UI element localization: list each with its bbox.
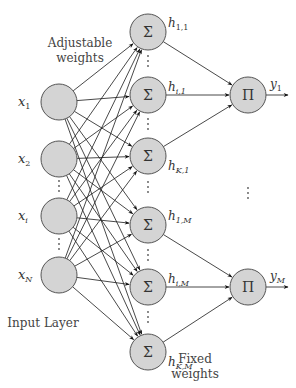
input-to-sum-edges [65,44,142,340]
sigma-icon: Σ [143,217,153,233]
output-label-y1: y1 [269,77,282,93]
edge-x2-hi1 [74,106,133,148]
sum-label-hK1: hK,1 [168,159,189,175]
ellipsis-sum-1 [147,60,149,62]
edge-x2-hK1 [77,157,129,159]
ellipsis-products [247,197,249,199]
ellipsis-inputs-1 [58,180,60,182]
ellipsis-inputs-1 [58,185,60,187]
edge-x1-hiM [67,118,140,270]
adjustable-weights-caption-2: weights [56,51,104,65]
input-label-x1: x1 [18,94,30,111]
edge-xN-hKM [73,287,134,340]
ellipsis-inputs-2 [58,248,60,250]
ellipsis-sum-4 [147,311,149,313]
edge-h11-y1 [163,42,232,85]
sum-label-hi1: hi,1 [168,80,186,96]
ellipsis-sum-1 [147,65,149,67]
input-layer-caption: Input Layer [7,316,79,330]
edge-xi-h11 [67,49,140,200]
edge-x1-hi1 [77,96,129,100]
ellipsis-sum-4 [147,316,149,318]
ellipsis-sum-2 [147,118,149,120]
edge-xi-hKM [69,231,138,336]
ellipsis-inputs-2 [58,238,60,240]
sigma-icon: Σ [143,148,153,164]
fixed-weights-caption-2: weights [171,367,219,381]
sigma-icon: Σ [143,344,153,360]
ellipsis-sum-1 [147,55,149,57]
input-node-xN [41,257,77,293]
input-node-x1 [41,84,77,120]
sum-label-h1M: h1,M [168,209,192,225]
ellipsis-sum-2 [147,128,149,130]
network-diagram: x1x2xixNΣh1,1Σhi,1ΣhK,1Σh1,MΣhi,MΣhK,MΠy… [0,0,296,388]
edge-xN-hK1 [70,171,137,260]
sigma-icon: Σ [143,24,153,40]
edge-x1-h1M [70,117,137,210]
input-label-xi: xi [18,208,28,225]
sum-label-h11: h1,1 [168,16,188,32]
ellipsis-sum-4 [147,321,149,323]
output-edges [266,95,288,287]
ellipsis-sum-2 [147,123,149,125]
fixed-weights-caption: Fixed [178,352,212,366]
output-label-yM: yM [269,269,286,285]
pi-icon: Π [242,87,254,103]
input-label-xN: xN [18,267,33,284]
ellipsis-sum-groups [147,191,149,193]
ellipsis-products [247,192,249,194]
sum-label-hiM: hi,M [168,272,190,288]
ellipsis-sum-3 [147,249,149,251]
ellipsis-inputs-1 [58,190,60,192]
sigma-icon: Σ [143,279,153,295]
ellipsis-sum-groups [147,186,149,188]
input-node-x2 [41,141,77,177]
sigma-icon: Σ [143,87,153,103]
ellipsis-sum-3 [147,254,149,256]
edge-h1M-yM [163,234,232,277]
input-node-xi [41,198,77,234]
ellipsis-sum-3 [147,259,149,261]
ellipsis-products [247,187,249,189]
ellipsis-inputs-2 [58,243,60,245]
input-label-x2: x2 [18,151,30,168]
edge-hKM-yM [163,297,232,342]
edge-hK1-y1 [163,105,231,147]
pi-icon: Π [242,279,254,295]
ellipsis-sum-groups [147,181,149,183]
adjustable-weights-caption: Adjustable [47,36,113,50]
